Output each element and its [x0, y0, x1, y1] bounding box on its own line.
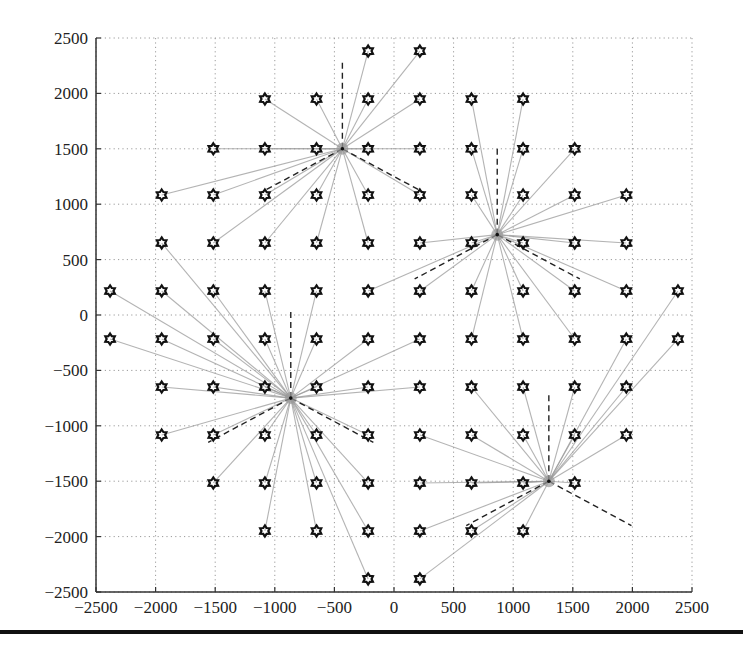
user-marker-icon	[312, 382, 322, 393]
user-link	[420, 481, 549, 579]
y-tick-labels: −2500−2000−1500−1000−5000500100015002000…	[44, 29, 88, 602]
user-marker-icon	[363, 382, 373, 393]
sector-boundary-line	[549, 481, 632, 525]
user-marker-icon	[467, 190, 477, 201]
user-marker-icon	[363, 237, 373, 248]
user-marker-icon	[415, 334, 425, 345]
x-tick-label: −2000	[134, 598, 178, 617]
user-link	[291, 398, 368, 579]
user-marker-icon	[518, 190, 528, 201]
y-tick-label: −2000	[44, 528, 88, 547]
user-marker-icon	[363, 430, 373, 441]
user-link	[342, 99, 368, 149]
user-link	[497, 235, 626, 291]
user-link	[291, 398, 317, 483]
base-station-marker	[336, 143, 348, 155]
user-marker-icon	[518, 94, 528, 105]
user-link	[549, 435, 626, 481]
user-marker-icon	[105, 334, 115, 345]
user-marker-icon	[570, 285, 580, 296]
y-tick-label: −1000	[44, 417, 88, 436]
user-link	[497, 149, 574, 235]
user-link	[497, 235, 574, 339]
sector-boundary-line	[208, 398, 291, 442]
x-tick-labels: −2500−2000−1500−1000−5000500100015002000…	[74, 598, 709, 617]
y-tick-label: 0	[80, 306, 89, 325]
user-marker-icon	[467, 525, 477, 536]
user-marker-icon	[415, 285, 425, 296]
y-tick-label: −2500	[44, 583, 88, 602]
user-marker-icon	[157, 334, 167, 345]
user-marker-icon	[622, 334, 632, 345]
user-marker-icon	[363, 46, 373, 57]
user-link	[342, 51, 419, 149]
x-tick-label: 1000	[496, 598, 530, 617]
user-links	[110, 51, 678, 579]
base-station-marker	[491, 229, 503, 241]
user-marker-icon	[312, 525, 322, 536]
sector-boundary-line	[497, 235, 580, 279]
y-tick-label: 500	[63, 251, 89, 270]
user-marker-icon	[260, 430, 270, 441]
user-marker-icon	[363, 573, 373, 584]
user-link	[291, 398, 368, 531]
y-tick-label: 1500	[54, 140, 88, 159]
user-link	[213, 398, 290, 483]
user-marker-icon	[260, 94, 270, 105]
user-link	[213, 291, 290, 398]
user-marker-icon	[415, 46, 425, 57]
user-link	[265, 398, 291, 483]
user-marker-icon	[363, 334, 373, 345]
base-station-marker	[543, 475, 555, 487]
user-link	[291, 398, 317, 531]
y-tick-label: −500	[53, 361, 88, 380]
user-marker-icon	[363, 285, 373, 296]
user-marker-icon	[415, 525, 425, 536]
user-marker-icon	[673, 334, 683, 345]
user-marker-icon	[415, 573, 425, 584]
grid-lines	[96, 38, 692, 592]
sector-boundary-line	[415, 235, 498, 279]
user-marker-icon	[467, 143, 477, 154]
page-separator-bar	[0, 630, 743, 634]
user-marker-icon	[415, 430, 425, 441]
user-link	[317, 99, 343, 149]
user-marker-icon	[415, 477, 425, 488]
user-link	[213, 149, 342, 243]
user-marker-icon	[363, 525, 373, 536]
user-link	[523, 435, 549, 481]
user-link	[291, 398, 368, 483]
user-marker-icon	[518, 525, 528, 536]
x-tick-label: 2500	[675, 598, 709, 617]
x-tick-label: 500	[441, 598, 467, 617]
sector-dashes	[208, 60, 631, 525]
user-marker-icon	[260, 237, 270, 248]
user-marker-icon	[518, 285, 528, 296]
x-tick-label: 0	[390, 598, 399, 617]
user-marker-icon	[157, 430, 167, 441]
user-marker-icon	[260, 334, 270, 345]
user-marker-icon	[312, 430, 322, 441]
base-station-marker	[285, 392, 297, 404]
user-link	[549, 291, 678, 481]
user-marker-icon	[518, 237, 528, 248]
user-marker-icon	[622, 190, 632, 201]
user-marker-icon	[467, 94, 477, 105]
y-tick-label: −1500	[44, 472, 88, 491]
user-marker-icon	[415, 237, 425, 248]
y-tick-label: 2000	[54, 84, 88, 103]
user-link	[162, 149, 343, 195]
user-marker-icon	[260, 525, 270, 536]
user-link	[420, 481, 549, 531]
user-link	[162, 243, 291, 398]
y-tick-label: 2500	[54, 29, 88, 48]
user-marker-icon	[363, 94, 373, 105]
y-tick-label: 1000	[54, 195, 88, 214]
x-tick-label: 2000	[615, 598, 649, 617]
user-marker-icon	[209, 334, 219, 345]
user-link	[162, 291, 291, 398]
x-tick-label: −1500	[193, 598, 237, 617]
user-link	[265, 99, 342, 149]
x-tick-label: −1000	[253, 598, 297, 617]
user-marker-icon	[312, 94, 322, 105]
